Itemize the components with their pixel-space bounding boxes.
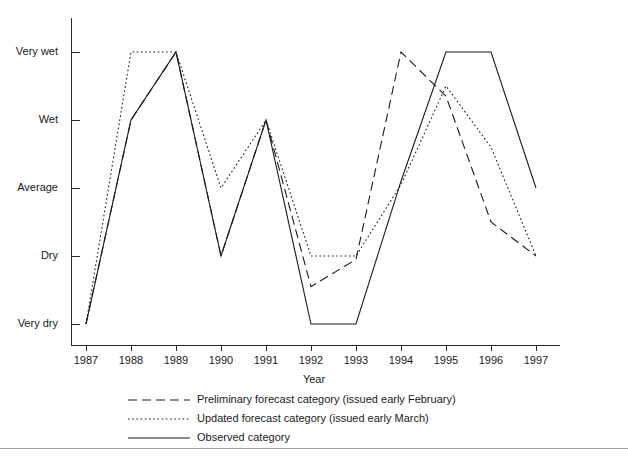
x-tick-label: 1991 bbox=[254, 354, 278, 366]
legend-label-2: Observed category bbox=[197, 431, 290, 443]
series-group bbox=[86, 52, 536, 324]
y-tick-label: Dry bbox=[41, 249, 59, 261]
x-axis-ticks: 1987198819891990199119921993199419951996… bbox=[74, 345, 548, 366]
x-tick-label: 1995 bbox=[434, 354, 458, 366]
x-tick-label: 1987 bbox=[74, 354, 98, 366]
legend-label-1: Updated forecast category (issued early … bbox=[197, 412, 429, 424]
y-tick-label: Wet bbox=[39, 113, 58, 125]
series-line-1 bbox=[86, 52, 536, 324]
x-tick-label: 1993 bbox=[344, 354, 368, 366]
x-tick-label: 1992 bbox=[299, 354, 323, 366]
y-tick-label: Very dry bbox=[18, 317, 59, 329]
x-tick-label: 1989 bbox=[164, 354, 188, 366]
legend-label-0: Preliminary forecast category (issued ea… bbox=[197, 393, 456, 405]
x-tick-label: 1996 bbox=[479, 354, 503, 366]
y-axis-ticks: Very wetWetAverageDryVery dry bbox=[16, 45, 80, 329]
series-line-2 bbox=[86, 52, 536, 324]
x-tick-label: 1994 bbox=[389, 354, 413, 366]
series-line-0 bbox=[86, 52, 536, 324]
y-tick-label: Average bbox=[17, 181, 58, 193]
figure-container: Very wetWetAverageDryVery dry 1987198819… bbox=[0, 0, 628, 459]
chart-legend: Preliminary forecast category (issued ea… bbox=[128, 393, 456, 443]
x-tick-label: 1988 bbox=[119, 354, 143, 366]
y-tick-label: Very wet bbox=[16, 45, 58, 57]
x-axis-title: Year bbox=[303, 373, 326, 385]
x-tick-label: 1990 bbox=[209, 354, 233, 366]
x-tick-label: 1997 bbox=[524, 354, 548, 366]
line-chart: Very wetWetAverageDryVery dry 1987198819… bbox=[0, 0, 628, 459]
